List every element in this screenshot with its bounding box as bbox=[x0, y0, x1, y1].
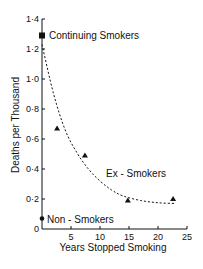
x-tick-label: 20 bbox=[153, 232, 163, 242]
x-tick-label: 15 bbox=[124, 232, 134, 242]
ex-smokers-marker bbox=[82, 153, 88, 158]
y-tick-label: 1·0 bbox=[26, 74, 39, 84]
y-tick-label: 0·8 bbox=[26, 104, 39, 114]
y-axis-title: Deaths per Thousand bbox=[10, 77, 21, 173]
y-tick-label: 0·6 bbox=[26, 134, 39, 144]
continuing-smokers-marker bbox=[39, 33, 45, 39]
ex-smokers-marker bbox=[170, 196, 176, 201]
data-points bbox=[39, 33, 176, 221]
continuing-smokers-label: Continuing Smokers bbox=[49, 30, 139, 41]
non-smokers-marker bbox=[40, 216, 45, 221]
chart: 00·20·40·60·81·01·21·4510152025 Continui… bbox=[0, 0, 203, 269]
ex-smokers-curve bbox=[42, 45, 175, 204]
ex-smokers-marker bbox=[54, 126, 60, 131]
x-tick-label: 5 bbox=[68, 232, 73, 242]
non-smokers-label: Non - Smokers bbox=[47, 214, 114, 225]
x-axis-title: Years Stopped Smoking bbox=[60, 242, 167, 253]
axes: 00·20·40·60·81·01·21·4510152025 bbox=[26, 14, 192, 242]
y-tick-label: 1·4 bbox=[26, 14, 39, 24]
y-tick-label: 0·2 bbox=[26, 194, 39, 204]
y-tick-label: 1·2 bbox=[26, 44, 39, 54]
fitted-curve bbox=[42, 45, 175, 204]
x-tick-label: 25 bbox=[182, 232, 192, 242]
y-tick-label: 0·4 bbox=[26, 164, 39, 174]
ex-smokers-label: Ex - Smokers bbox=[106, 168, 166, 179]
y-tick-label: 0 bbox=[34, 224, 39, 234]
x-tick-label: 10 bbox=[95, 232, 105, 242]
